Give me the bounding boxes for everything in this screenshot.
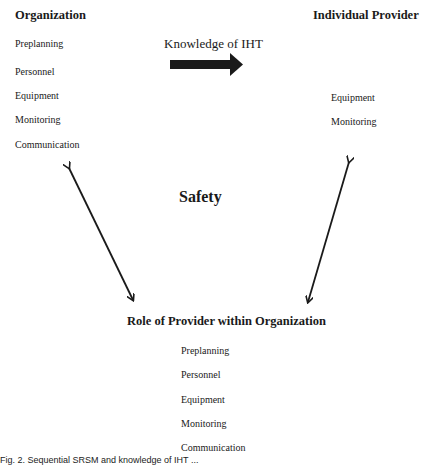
double-arrow-icon (308, 162, 349, 302)
double-arrow-icon (69, 168, 133, 300)
right-arrow-icon (170, 53, 243, 76)
